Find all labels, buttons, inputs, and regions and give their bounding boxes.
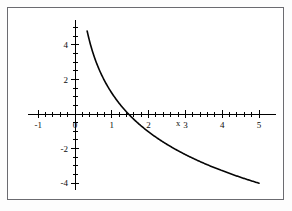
x-tick-label: 4 bbox=[220, 120, 225, 130]
x-tick-label: 3 bbox=[183, 120, 188, 130]
data-curve bbox=[87, 31, 259, 183]
plot-frame: -1012345 -4-224 x bbox=[7, 7, 284, 200]
x-tick-label: -1 bbox=[34, 120, 42, 130]
x-tick-labels: -1012345 bbox=[34, 120, 261, 130]
x-tick-label: 0 bbox=[73, 120, 78, 130]
x-tick-label: 5 bbox=[257, 120, 262, 130]
x-tick-label: 1 bbox=[110, 120, 115, 130]
y-tick-label: -4 bbox=[61, 178, 69, 188]
y-tick-label: 2 bbox=[64, 75, 69, 85]
figure-container: -1012345 -4-224 x bbox=[0, 0, 292, 211]
y-tick-label: -2 bbox=[61, 144, 69, 154]
plot-canvas: -1012345 -4-224 x bbox=[8, 8, 283, 199]
y-tick-label: 4 bbox=[64, 40, 69, 50]
x-axis-label: x bbox=[176, 118, 181, 128]
x-tick-label: 2 bbox=[146, 120, 151, 130]
